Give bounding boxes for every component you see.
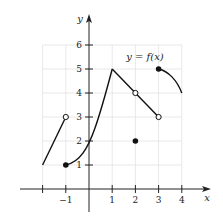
- y-tick-label: 6: [76, 40, 82, 50]
- y-tick-label: 1: [76, 160, 82, 170]
- open-point: [133, 90, 138, 95]
- open-point: [156, 114, 161, 119]
- x-axis-label: x: [204, 192, 210, 203]
- closed-point: [133, 138, 139, 144]
- y-tick-label: 5: [76, 64, 82, 74]
- function-graph: −1 1 2 3 4 x 1 2 3 4 5 6 y y = f(x): [0, 0, 223, 221]
- closed-point: [156, 66, 162, 72]
- function-label: y = f(x): [125, 51, 164, 62]
- open-point: [63, 114, 68, 119]
- y-tick-label: 3: [76, 112, 82, 122]
- y-tick-label: 4: [76, 88, 82, 98]
- segment-right-curve: [159, 69, 182, 93]
- closed-point: [63, 162, 69, 168]
- x-tick-label: 2: [133, 195, 139, 205]
- x-tick-label: 4: [179, 195, 185, 205]
- y-tick-label: 2: [76, 136, 82, 146]
- x-tick-label: −1: [59, 195, 72, 205]
- x-tick-label: 3: [156, 195, 162, 205]
- y-axis-label: y: [76, 13, 83, 24]
- x-tick-label: 1: [109, 195, 115, 205]
